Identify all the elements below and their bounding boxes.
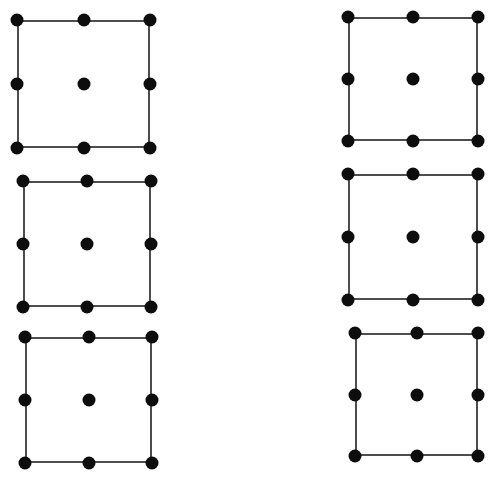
bottom-right-dot [144, 142, 157, 155]
middle-left-dot [19, 394, 32, 407]
top-center-dot [81, 175, 94, 188]
figure-canvas [0, 0, 498, 478]
center-dot [407, 231, 420, 244]
bottom-left-dot [349, 450, 362, 463]
square-6 [355, 333, 478, 456]
bottom-right-dot [472, 135, 485, 148]
bottom-right-dot [146, 457, 159, 470]
middle-right-dot [146, 394, 159, 407]
bottom-left-dot [19, 457, 32, 470]
middle-left-dot [17, 238, 30, 251]
top-left-dot [342, 168, 355, 181]
top-right-dot [144, 14, 157, 27]
bottom-center-dot [81, 301, 94, 314]
top-right-dot [146, 331, 159, 344]
center-dot [77, 78, 90, 91]
bottom-left-dot [11, 142, 24, 155]
bottom-center-dot [407, 294, 420, 307]
middle-left-dot [342, 73, 355, 86]
top-left-dot [17, 175, 30, 188]
bottom-right-dot [145, 301, 158, 314]
top-left-dot [19, 331, 32, 344]
top-right-dot [145, 175, 158, 188]
middle-right-dot [144, 78, 157, 91]
bottom-center-dot [77, 142, 90, 155]
top-center-dot [82, 331, 95, 344]
middle-right-dot [472, 73, 485, 86]
top-left-dot [349, 327, 362, 340]
bottom-right-dot [472, 450, 485, 463]
square-3 [23, 181, 151, 307]
middle-left-dot [349, 388, 362, 401]
top-center-dot [410, 327, 423, 340]
middle-right-dot [472, 388, 485, 401]
bottom-right-dot [472, 294, 485, 307]
top-left-dot [342, 11, 355, 24]
bottom-left-dot [342, 135, 355, 148]
top-center-dot [407, 11, 420, 24]
bottom-center-dot [82, 457, 95, 470]
middle-right-dot [472, 231, 485, 244]
top-right-dot [472, 168, 485, 181]
top-center-dot [77, 14, 90, 27]
top-left-dot [11, 14, 24, 27]
bottom-left-dot [17, 301, 30, 314]
square-5 [25, 337, 152, 463]
top-right-dot [472, 11, 485, 24]
top-right-dot [472, 327, 485, 340]
square-4 [348, 174, 478, 300]
center-dot [81, 238, 94, 251]
bottom-left-dot [342, 294, 355, 307]
square-1 [17, 20, 150, 148]
middle-left-dot [342, 231, 355, 244]
square-2 [348, 17, 478, 141]
bottom-center-dot [407, 135, 420, 148]
middle-left-dot [11, 78, 24, 91]
center-dot [82, 394, 95, 407]
center-dot [407, 73, 420, 86]
center-dot [410, 388, 423, 401]
top-center-dot [407, 168, 420, 181]
bottom-center-dot [410, 450, 423, 463]
middle-right-dot [145, 238, 158, 251]
